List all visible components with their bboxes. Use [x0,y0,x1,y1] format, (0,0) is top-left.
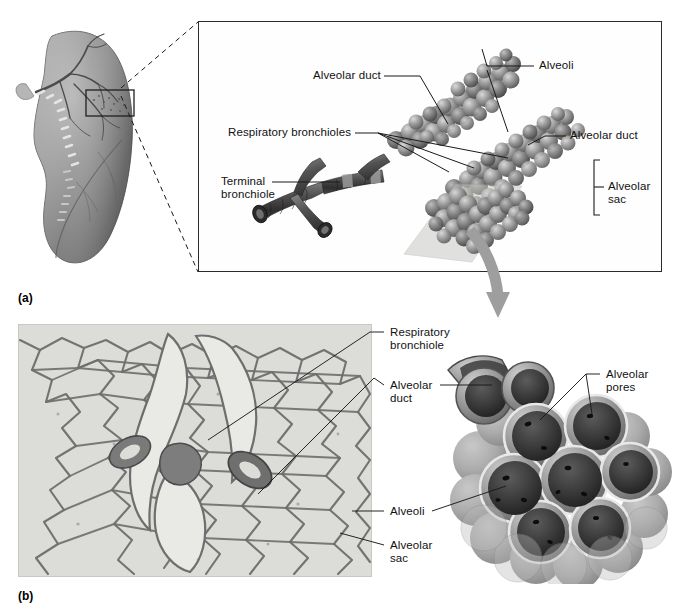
label-alveolar-pores-line1: Alveolar [606,368,648,381]
label-alveolar-duct-b-line1: Alveolar [390,379,432,392]
label-alveolar-duct-left: Alveolar duct [313,69,381,82]
lung-svg [14,22,146,272]
label-alveoli-b: Alveoli [390,505,425,518]
label-resp-bronchiole-b-line2: bronchiole [390,339,444,352]
alveolar-sac-cluster-illustration [440,352,672,584]
label-alveolar-pores-line2: pores [606,381,635,394]
figure-respiratory-zone: Alveolar duct Alveoli Respiratory bronch… [0,0,677,614]
label-alveolar-sac-b-line2: sac [390,552,408,565]
label-alveolar-sac-b-line1: Alveolar [390,539,432,552]
label-respiratory-bronchioles: Respiratory bronchioles [228,126,351,139]
label-terminal-bronchiole-line1: Terminal [221,175,265,188]
leader-alveolar-duct-b-stub [374,378,384,385]
label-terminal-bronchiole-line2: bronchiole [221,188,275,201]
panel-b-letter: (b) [18,589,33,603]
lung-illustration [14,22,146,272]
panel-a-letter: (a) [18,291,33,305]
histology-svg [18,324,372,577]
label-alveolar-duct-b-line2: duct [390,392,412,405]
label-alveolar-sac-a-line1: Alveolar [608,180,650,193]
label-resp-bronchiole-b-line1: Respiratory [390,326,450,339]
label-alveolar-duct-right: Alveolar duct [570,129,638,142]
alveolar-cluster-svg [440,352,672,584]
histology-micrograph [18,324,372,577]
alveolar-sac-cluster-lower [398,150,573,268]
label-alveolar-sac-a-line2: sac [608,193,626,206]
label-alveoli-upper: Alveoli [539,59,574,72]
